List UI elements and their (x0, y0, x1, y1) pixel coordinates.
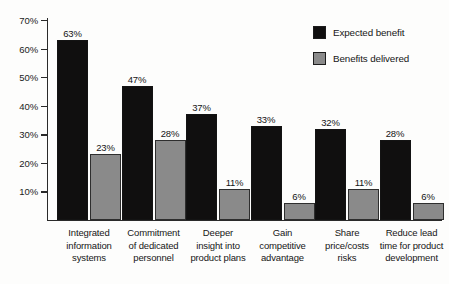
y-tick-mark (41, 163, 48, 164)
category-label: Reduce leadtime for productdevelopment (369, 227, 449, 265)
bar-value-label: 11% (226, 177, 244, 188)
bar-expected-benefit[interactable]: 37% (186, 114, 217, 220)
bar-expected-benefit[interactable]: 32% (315, 129, 346, 220)
bar-value-label: 28% (386, 128, 404, 139)
bar-expected-benefit[interactable]: 63% (57, 40, 88, 220)
bar-benefits-delivered[interactable]: 6% (413, 203, 444, 220)
x-axis-line (47, 220, 442, 221)
y-tick-mark (41, 191, 48, 192)
y-tick-label: 20% (0, 157, 38, 168)
bar-group: 63%23% (57, 20, 121, 220)
bar-group: 37%11% (186, 20, 250, 220)
bar-value-label: 23% (96, 142, 114, 153)
bar-benefits-delivered[interactable]: 11% (219, 189, 250, 220)
y-tick-mark (41, 77, 48, 78)
bar-chart: 70%60%50%40%30%20%10% 63%23%47%28%37%11%… (0, 0, 449, 284)
y-tick-label: 70% (0, 15, 38, 26)
bar-value-label: 37% (192, 102, 210, 113)
bar-benefits-delivered[interactable]: 6% (284, 203, 315, 220)
bar-value-label: 11% (355, 177, 373, 188)
bar-benefits-delivered[interactable]: 28% (155, 140, 186, 220)
legend-label: Benefits delivered (333, 53, 409, 64)
y-tick-mark (41, 49, 48, 50)
legend-label: Expected benefit (333, 27, 404, 38)
y-tick-label: 40% (0, 100, 38, 111)
category-label-line: development (369, 252, 449, 265)
y-tick-mark (41, 106, 48, 107)
bar-expected-benefit[interactable]: 47% (122, 86, 153, 220)
legend-item[interactable]: Expected benefit (313, 22, 409, 42)
bar-value-label: 6% (421, 191, 434, 202)
y-tick-label: 60% (0, 43, 38, 54)
bar-value-label: 6% (292, 191, 305, 202)
category-label-line: time for product (369, 240, 449, 253)
bar-value-label: 63% (63, 28, 81, 39)
bar-value-label: 28% (161, 128, 179, 139)
y-tick-label: 10% (0, 186, 38, 197)
legend-swatch-expected-benefit (313, 26, 326, 39)
legend-swatch-benefits-delivered (313, 52, 326, 65)
bar-group: 47%28% (122, 20, 186, 220)
bar-value-label: 33% (257, 114, 275, 125)
bar-value-label: 47% (128, 74, 146, 85)
y-tick-mark (41, 134, 48, 135)
bar-benefits-delivered[interactable]: 11% (348, 189, 379, 220)
legend-item[interactable]: Benefits delivered (313, 48, 409, 68)
bar-group: 33%6% (251, 20, 315, 220)
y-tick-label: 30% (0, 129, 38, 140)
chart-legend: Expected benefitBenefits delivered (313, 22, 409, 74)
y-tick-mark (41, 20, 48, 21)
bar-value-label: 32% (321, 117, 339, 128)
bar-expected-benefit[interactable]: 33% (251, 126, 282, 220)
category-label-line: Reduce lead (369, 227, 449, 240)
y-tick-label: 50% (0, 72, 38, 83)
bar-benefits-delivered[interactable]: 23% (90, 154, 121, 220)
bar-expected-benefit[interactable]: 28% (380, 140, 411, 220)
